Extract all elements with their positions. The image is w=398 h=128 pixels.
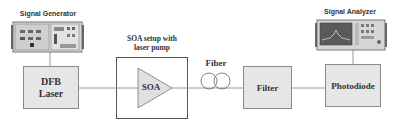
filter-label: Filter xyxy=(257,82,279,94)
fiber-label: Fiber xyxy=(200,58,232,68)
photodiode-block: Photodiode xyxy=(325,64,381,107)
photodiode-label: Photodiode xyxy=(331,80,375,92)
soa-amplifier-label: SOA xyxy=(138,82,164,92)
filter-block: Filter xyxy=(243,66,292,109)
